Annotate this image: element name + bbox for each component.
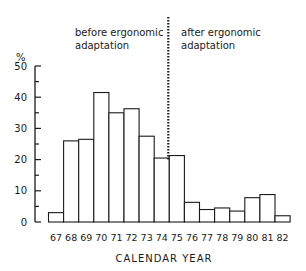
bar-78 (215, 208, 230, 222)
x-tick-label: 68 (65, 232, 77, 243)
bar-82 (275, 216, 290, 222)
bar-77 (200, 210, 215, 222)
x-tick-label: 69 (80, 232, 92, 243)
bar-79 (230, 211, 245, 222)
x-tick-label: 71 (110, 232, 122, 243)
x-tick-label: 76 (186, 232, 198, 243)
y-axis: 01020304050 (14, 61, 41, 228)
after-annotation-line1: after ergonomic (181, 27, 261, 38)
y-axis-label: % (16, 52, 26, 63)
x-tick-label: 67 (50, 232, 62, 243)
x-tick-label: 81 (261, 232, 273, 243)
y-tick-label: 30 (14, 123, 27, 134)
y-tick-label: 20 (14, 154, 27, 165)
x-tick-label: 75 (171, 232, 183, 243)
histogram-chart: 01020304050 6768697071727374757677787980… (0, 0, 306, 271)
x-tick-label: 80 (246, 232, 258, 243)
bar-72 (124, 109, 139, 222)
bar-67 (49, 213, 64, 222)
bar-76 (184, 202, 199, 222)
x-tick-labels: 67686970717273747576777879808182 (50, 232, 289, 243)
y-tick-label: 0 (21, 217, 27, 228)
bar-69 (79, 139, 94, 222)
bar-73 (139, 136, 154, 222)
x-tick-label: 77 (201, 232, 213, 243)
x-axis-label: CALENDAR YEAR (116, 253, 213, 264)
x-tick-label: 74 (156, 232, 168, 243)
bar-68 (64, 141, 79, 222)
before-annotation-line2: adaptation (75, 40, 129, 51)
bar-80 (245, 198, 260, 222)
x-tick-label: 78 (216, 232, 228, 243)
bars (49, 93, 291, 222)
x-tick-label: 79 (231, 232, 243, 243)
before-annotation-line1: before ergonomic (75, 27, 163, 38)
y-tick-label: 10 (14, 185, 27, 196)
after-annotation-line2: adaptation (181, 40, 235, 51)
bar-70 (94, 93, 109, 222)
x-tick-label: 73 (141, 232, 153, 243)
x-tick-label: 72 (126, 232, 138, 243)
bar-75 (169, 156, 184, 222)
y-tick-label: 40 (14, 92, 27, 103)
x-tick-label: 70 (95, 232, 107, 243)
x-tick-label: 82 (277, 232, 289, 243)
bar-74 (154, 158, 169, 222)
bar-81 (260, 195, 275, 222)
bar-71 (109, 113, 124, 222)
